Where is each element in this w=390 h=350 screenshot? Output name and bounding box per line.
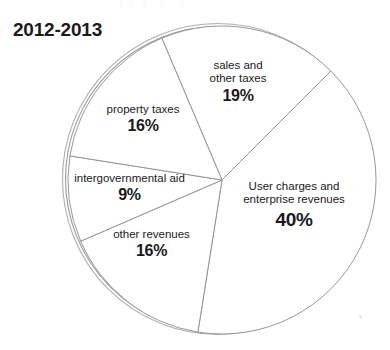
- pie-label-line1: property taxes: [91, 103, 195, 116]
- pie-label-line1: other revenues: [95, 228, 208, 241]
- pie-label-line1: sales and: [192, 59, 284, 72]
- pie-label-line2: other taxes: [192, 72, 284, 85]
- pie-label-intergovernmental-aid: intergovernmental aid 9%: [63, 172, 196, 205]
- pie-label-line2: enterprise revenues: [228, 193, 360, 206]
- pie-label-line1: intergovernmental aid: [63, 172, 196, 185]
- pie-label-value: 16%: [95, 242, 208, 261]
- pie-label-sales-and-other-taxes: sales and other taxes 19%: [192, 59, 284, 105]
- pie-label-value: 40%: [228, 209, 360, 231]
- pie-label-value: 19%: [192, 87, 284, 106]
- pie-chart-figure: 2012-2013 sales and other taxes 19% prop…: [0, 0, 390, 350]
- scan-speck: [359, 315, 362, 318]
- pie-label-line1: User charges and: [228, 180, 360, 193]
- pie-label-user-charges-and-enterprise-revenues: User charges and enterprise revenues 40%: [228, 180, 360, 231]
- pie-label-value: 9%: [63, 186, 196, 205]
- pie-label-other-revenues: other revenues 16%: [95, 228, 208, 261]
- pie-label-property-taxes: property taxes 16%: [91, 103, 195, 136]
- pie-label-value: 16%: [91, 117, 195, 136]
